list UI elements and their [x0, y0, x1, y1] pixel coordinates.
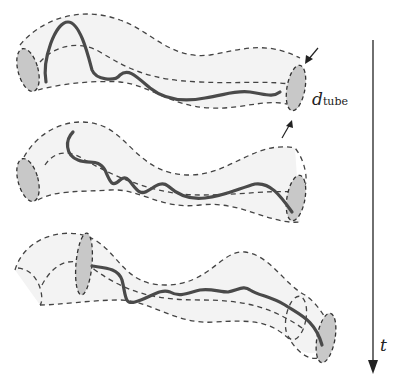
diameter-subscript: tube	[323, 95, 348, 108]
time-arrow	[368, 40, 378, 374]
diagram-canvas	[0, 0, 397, 381]
time-axis-label: t	[380, 335, 387, 355]
tube-top	[13, 14, 309, 112]
tube-bottom	[15, 232, 339, 364]
tube-middle	[13, 122, 309, 222]
diameter-symbol: d	[312, 89, 323, 109]
tube-diameter-label: dtube	[312, 89, 348, 109]
